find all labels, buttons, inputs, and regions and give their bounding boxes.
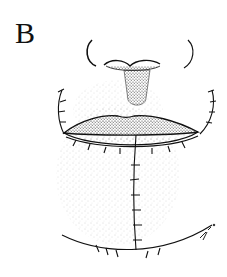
skin-stipple xyxy=(56,80,180,245)
nose xyxy=(87,40,193,71)
surgical-illustration xyxy=(0,0,227,277)
artist-signature xyxy=(200,224,215,240)
